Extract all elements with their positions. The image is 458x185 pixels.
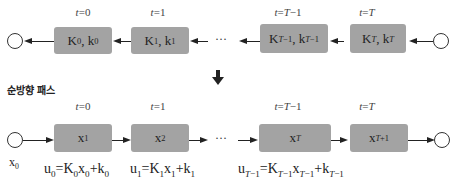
section-title: 순방향 패스 [7,82,55,97]
connector-line [415,41,433,42]
time-label-tT-1: t=T−1 [258,100,318,112]
equation-u1: u1=K1x1+k1 [130,161,195,179]
start-label-x0: x0 [9,155,19,171]
equation-uT-1: uT−1=KT−1xT−1+kT−1 [238,161,344,179]
time-label-t1: t=1 [128,100,188,112]
ellipsis: ··· [215,32,227,47]
arrow-head-right [200,137,208,143]
connector-line [408,140,428,141]
ellipsis: ··· [215,131,227,146]
arrow-head-right [46,137,54,143]
time-label-t1: t=1 [128,6,188,18]
time-label-t0: t=0 [53,100,113,112]
time-label-t0: t=0 [53,6,113,18]
connector-line [245,41,260,42]
connector-line [238,140,250,141]
down-arrow-icon [212,70,224,86]
end-node [434,132,450,148]
state-box-x2: x2 [131,124,189,152]
time-label-tT-1: t=T−1 [258,6,318,18]
time-label-tT: t=T [337,6,397,18]
state-box-xT+1: xT+1 [350,124,408,152]
terminal-node-left [7,33,23,49]
start-node [7,132,23,148]
gain-box-tT: KT, kT [350,24,406,53]
connector-line [23,140,46,141]
arrow-head-right [340,137,348,143]
state-box-x1: x1 [54,124,112,152]
time-label-tT: t=T [337,100,397,112]
connector-line [336,41,344,42]
gain-box-tT-1: KT−1, kT−1 [260,24,328,53]
gain-box-t0: K0, k0 [54,27,112,54]
arrow-head-right [250,137,258,143]
terminal-node-right [433,33,449,49]
connector-line [119,41,131,42]
equation-u0: u0=K0x0+k0 [44,161,109,179]
arrow-head-right [123,137,131,143]
connector-line [196,41,208,42]
state-box-xT: xT [259,124,331,152]
connector-line [30,41,54,42]
gain-box-t1: K1, k1 [131,27,189,54]
